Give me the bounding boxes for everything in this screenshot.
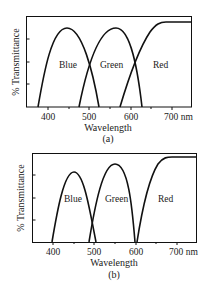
blue-curve-b <box>52 172 96 242</box>
xtick-500-b: 500 <box>87 247 102 257</box>
label-red-a: Red <box>153 60 169 70</box>
y-axis-label-b: % Transmittance <box>15 164 26 232</box>
xtick-700-a: 700 nm <box>164 112 193 122</box>
xtick-500-a: 500 <box>82 112 97 122</box>
xtick-600-a: 600 <box>124 112 139 122</box>
x-axis-label-a: Wavelength <box>84 122 132 133</box>
chart-panel-b: Blue Green Red 400 500 600 700 nm Wavele… <box>15 154 198 282</box>
label-blue-a: Blue <box>59 60 77 70</box>
xtick-400-a: 400 <box>41 112 56 122</box>
label-green-b: Green <box>105 194 128 204</box>
figure: Blue Green Red 400 500 600 700 nm Wavele… <box>0 0 210 289</box>
x-axis-label-b: Wavelength <box>90 257 138 268</box>
y-axis-label-a: % Transmittance <box>10 28 21 96</box>
caption-a: (a) <box>102 133 113 145</box>
label-blue-b: Blue <box>64 194 82 204</box>
caption-b: (b) <box>108 269 120 281</box>
xtick-600-b: 600 <box>129 247 144 257</box>
chart-panel-a: Blue Green Red 400 500 600 700 nm Wavele… <box>10 17 193 146</box>
xtick-700-b: 700 nm <box>169 247 198 257</box>
label-red-b: Red <box>158 194 174 204</box>
xtick-400-b: 400 <box>46 247 61 257</box>
label-green-a: Green <box>100 60 123 70</box>
